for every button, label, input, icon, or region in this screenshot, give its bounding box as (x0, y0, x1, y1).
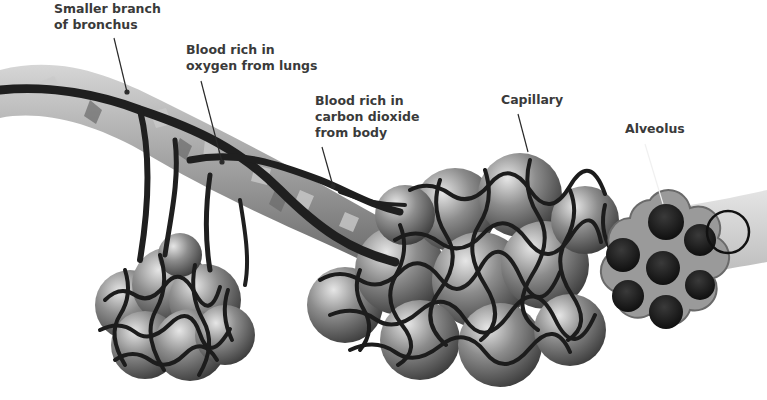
label-line: Alveolus (625, 121, 685, 137)
label-line: carbon dioxide (315, 109, 419, 125)
label-line: Smaller branch (54, 1, 161, 17)
label-blood-rich-in-carbon-dioxide: Blood rich in carbon dioxide from body (315, 93, 419, 141)
leader-dot-carbon-dioxide (331, 184, 335, 188)
leader-dot-bronchus (125, 90, 129, 94)
label-line: oxygen from lungs (186, 58, 318, 74)
label-capillary: Capillary (501, 92, 563, 108)
label-line: of bronchus (54, 17, 161, 33)
label-alveolus: Alveolus (625, 121, 685, 137)
leader-lines (0, 0, 767, 400)
alveoli-diagram: Smaller branch of bronchus Blood rich in… (0, 0, 767, 400)
label-line: from body (315, 125, 419, 141)
label-line: Capillary (501, 92, 563, 108)
leader-line-carbon-dioxide (322, 147, 333, 186)
leader-line-bronchus (114, 38, 127, 92)
leader-dot-oxygen (220, 160, 224, 164)
label-line: Blood rich in (186, 42, 318, 58)
label-line: Blood rich in (315, 93, 419, 109)
leader-line-alveolus (645, 144, 663, 204)
leader-line-oxygen (201, 81, 222, 162)
label-smaller-branch-of-bronchus: Smaller branch of bronchus (54, 1, 161, 33)
leader-line-capillary (518, 114, 528, 152)
label-blood-rich-in-oxygen: Blood rich in oxygen from lungs (186, 42, 318, 74)
